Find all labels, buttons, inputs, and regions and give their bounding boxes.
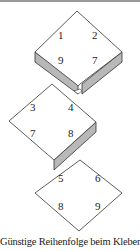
top-piece-label-3: 9 — [58, 54, 64, 66]
bottom-piece-label-1: 5 — [58, 172, 64, 184]
middle-piece-label-2: 4 — [68, 101, 74, 113]
middle-piece-label-1: 3 — [30, 101, 36, 113]
bottom-piece: 5 6 8 9 — [35, 160, 122, 231]
top-piece-label-4: 7 — [92, 54, 98, 66]
middle-piece-face — [9, 84, 96, 160]
bottom-piece-label-4: 9 — [95, 200, 101, 212]
middle-piece: 3 4 7 8 — [9, 84, 96, 170]
bottom-piece-face — [35, 160, 122, 231]
bottom-piece-label-2: 6 — [95, 172, 101, 184]
top-piece-face — [35, 11, 122, 86]
top-piece-label-2: 2 — [92, 29, 98, 41]
middle-piece-label-4: 8 — [68, 127, 74, 139]
bottom-piece-label-3: 8 — [58, 200, 64, 212]
gluing-order-diagram: 1 2 9 7 3 4 7 8 5 6 8 9 — [0, 0, 140, 240]
top-piece: 1 2 9 7 — [35, 11, 122, 94]
caption: Günstige Reihenfolge beim Kleben: — [0, 236, 140, 247]
top-piece-label-1: 1 — [58, 29, 64, 41]
middle-piece-label-3: 7 — [30, 127, 36, 139]
